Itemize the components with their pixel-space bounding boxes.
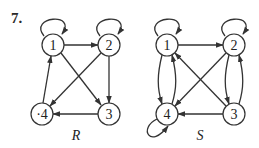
node-s-3: 3 xyxy=(223,103,245,125)
svg-text:2: 2 xyxy=(231,38,238,53)
node-r-2: 2 xyxy=(98,34,120,56)
graph-label-r: R xyxy=(71,128,81,143)
node-s-4: 4 xyxy=(156,103,178,125)
node-s-1: 1 xyxy=(156,34,178,56)
digraph-s: 1 2 3 4 S xyxy=(147,19,246,143)
svg-text:3: 3 xyxy=(106,107,113,122)
edge-s-1-4 xyxy=(158,55,162,104)
svg-text:1: 1 xyxy=(50,38,57,53)
graph-label-s: S xyxy=(197,128,204,143)
edge-s-2-3 xyxy=(225,55,229,104)
edge-r-1-3 xyxy=(61,53,101,105)
svg-text:3: 3 xyxy=(231,107,238,122)
node-r-3: 3 xyxy=(98,103,120,125)
node-s-2: 2 xyxy=(223,34,245,56)
edge-s-3-2 xyxy=(239,55,243,104)
node-r-1: 1 xyxy=(42,34,64,56)
edge-s-4-1 xyxy=(172,55,176,104)
svg-text:2: 2 xyxy=(106,38,113,53)
edge-r-2-4 xyxy=(50,53,101,106)
node-r-4: ·4 xyxy=(31,103,53,125)
edge-r-4-1 xyxy=(43,56,51,103)
svg-text:·4: ·4 xyxy=(36,107,48,122)
digraph-r: 1 2 3 ·4 R xyxy=(31,19,121,143)
svg-text:1: 1 xyxy=(164,38,171,53)
relation-digraphs: 1 2 3 ·4 R xyxy=(0,0,259,148)
svg-text:4: 4 xyxy=(164,107,171,122)
